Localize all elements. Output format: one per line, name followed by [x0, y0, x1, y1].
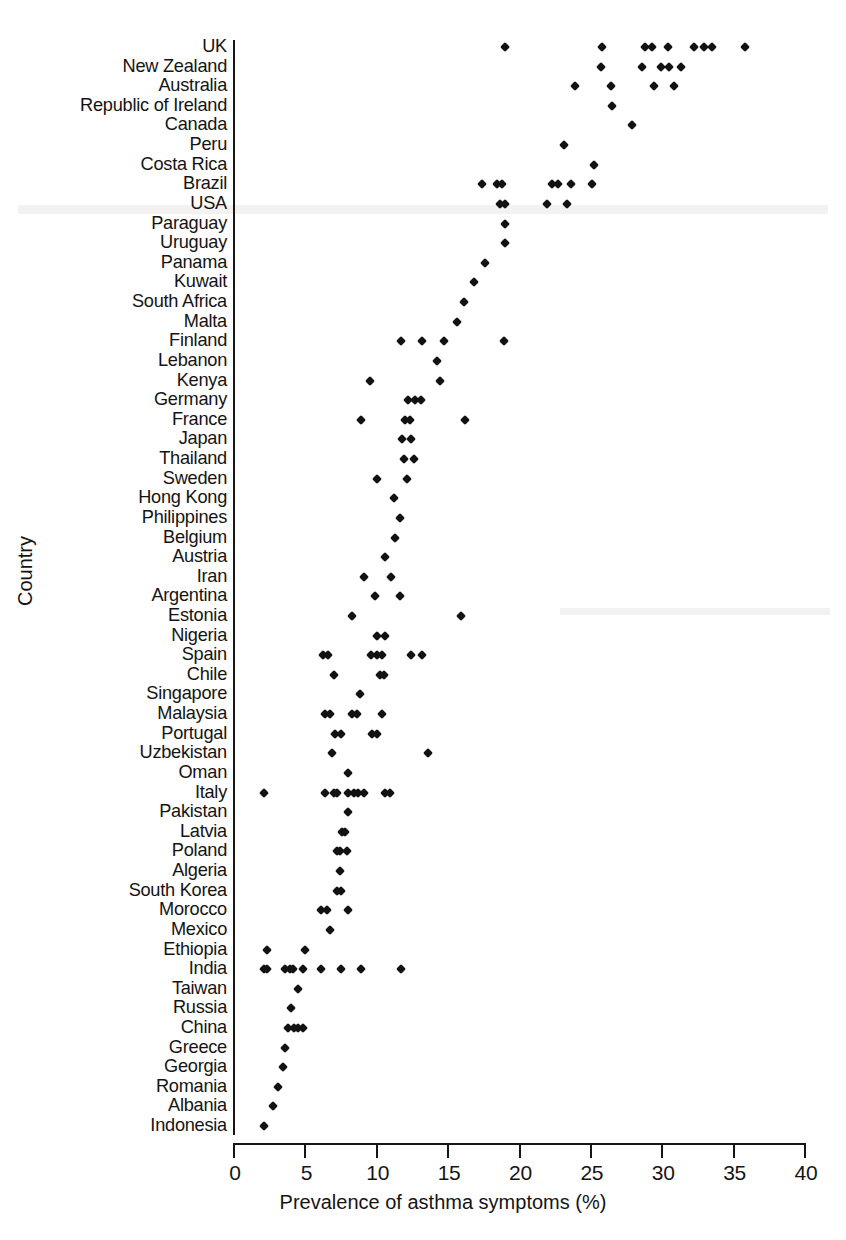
data-point — [607, 101, 617, 111]
data-point — [395, 513, 405, 523]
y-axis-tick-label: UK — [3, 37, 233, 56]
data-point — [343, 768, 353, 778]
data-point — [627, 121, 637, 131]
y-axis-tick-label: Chile — [3, 665, 233, 684]
data-point — [587, 179, 597, 189]
data-point — [647, 42, 657, 52]
data-point — [336, 729, 346, 739]
data-point — [298, 964, 308, 974]
y-axis-tick-label: Nigeria — [3, 626, 233, 645]
data-point — [566, 179, 576, 189]
y-axis-tick-label: Sweden — [3, 469, 233, 488]
y-axis-tick-label: Kenya — [3, 371, 233, 390]
data-point — [343, 807, 353, 817]
y-axis-tick-label: Russia — [3, 998, 233, 1017]
data-point — [300, 945, 310, 955]
y-axis-tick-label: Spain — [3, 645, 233, 664]
asthma-prevalence-scatter-figure: UKNew ZealandAustraliaRepublic of Irelan… — [0, 0, 846, 1240]
x-axis-title: Prevalence of asthma symptoms (%) — [0, 1190, 846, 1214]
data-point — [380, 631, 390, 641]
y-axis-tick-label: Poland — [3, 841, 233, 860]
y-axis-tick-label: Malta — [3, 312, 233, 331]
data-point — [390, 533, 400, 543]
x-axis-tick-label: 0 — [205, 1160, 265, 1185]
y-axis-tick-label: Morocco — [3, 900, 233, 919]
y-axis-tick-label: Lebanon — [3, 351, 233, 370]
data-point — [406, 434, 416, 444]
y-axis-tick-label: Italy — [3, 783, 233, 802]
y-axis-tick-label: Belgium — [3, 528, 233, 547]
data-point — [378, 650, 388, 660]
x-axis-tick — [661, 1145, 663, 1158]
y-axis-tick-label: India — [3, 959, 233, 978]
data-point — [570, 81, 580, 91]
data-point — [416, 395, 426, 405]
y-axis-tick-label: Romania — [3, 1077, 233, 1096]
data-point — [669, 81, 679, 91]
data-point — [359, 572, 369, 582]
x-axis-tick — [733, 1145, 735, 1158]
data-point — [365, 376, 375, 386]
data-point — [293, 984, 303, 994]
data-point — [423, 748, 433, 758]
data-point — [280, 1043, 290, 1053]
data-point — [432, 356, 442, 366]
y-axis-tick-label: Uzbekistan — [3, 743, 233, 762]
data-point — [459, 297, 469, 307]
x-axis-tick — [590, 1145, 592, 1158]
data-point — [497, 179, 507, 189]
y-axis-tick-label: Canada — [3, 115, 233, 134]
y-axis-tick-label: Algeria — [3, 861, 233, 880]
data-point — [500, 199, 510, 209]
y-axis-tick-label: Indonesia — [3, 1116, 233, 1135]
y-axis-tick-label: Panama — [3, 253, 233, 272]
data-point — [542, 199, 552, 209]
y-axis-tick-label: Costa Rica — [3, 155, 233, 174]
y-axis-tick-label: South Africa — [3, 292, 233, 311]
data-point — [268, 1102, 278, 1112]
y-axis-tick-label: Pakistan — [3, 802, 233, 821]
y-axis-tick-label: Mexico — [3, 920, 233, 939]
data-point — [480, 258, 490, 268]
y-axis-tick-label: Iran — [3, 567, 233, 586]
y-axis-tick-label: Greece — [3, 1038, 233, 1057]
data-point — [406, 650, 416, 660]
y-axis-tick-label: Estonia — [3, 606, 233, 625]
data-point — [356, 964, 366, 974]
y-axis-tick-label: South Korea — [3, 881, 233, 900]
data-point — [386, 572, 396, 582]
x-axis-tick — [376, 1145, 378, 1158]
data-point — [348, 611, 358, 621]
data-point — [380, 552, 390, 562]
data-point — [456, 611, 466, 621]
data-point — [469, 277, 479, 287]
data-point — [597, 42, 607, 52]
data-point — [417, 336, 427, 346]
y-axis-tick-label: Albania — [3, 1096, 233, 1115]
y-axis-tick-label: Singapore — [3, 684, 233, 703]
x-axis-tick — [447, 1145, 449, 1158]
y-axis-tick-label: Malaysia — [3, 704, 233, 723]
data-point — [355, 690, 365, 700]
data-point — [500, 42, 510, 52]
data-point — [606, 81, 616, 91]
data-point — [399, 454, 409, 464]
data-point — [262, 945, 272, 955]
y-axis-tick-label: Japan — [3, 429, 233, 448]
data-point — [259, 788, 269, 798]
x-axis-tick — [519, 1145, 521, 1158]
x-axis-tick-label: 15 — [419, 1160, 479, 1185]
data-point — [273, 1082, 283, 1092]
data-point — [500, 219, 510, 229]
y-axis-tick-label: Portugal — [3, 724, 233, 743]
y-axis-tick-label: Peru — [3, 135, 233, 154]
y-axis-tick-label: Thailand — [3, 449, 233, 468]
data-point — [329, 670, 339, 680]
data-point — [396, 336, 406, 346]
x-axis-tick — [233, 1145, 235, 1158]
data-point — [378, 709, 388, 719]
data-point — [370, 591, 380, 601]
x-axis-tick-label: 25 — [562, 1160, 622, 1185]
data-point — [553, 179, 563, 189]
data-point — [707, 42, 717, 52]
